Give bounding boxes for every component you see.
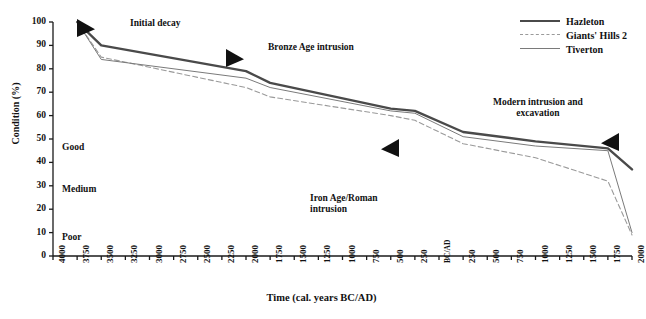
condition-zone-medium: Medium xyxy=(62,184,96,194)
y-axis-tick-80: 80 xyxy=(22,63,46,73)
legend-label-hazleton: Hazleton xyxy=(566,16,604,27)
marker-initial-decay-icon xyxy=(77,19,95,37)
legend-label-tiverton: Tiverton xyxy=(566,44,603,55)
x-axis-tick-750: 750 xyxy=(371,250,381,264)
x-axis-tick-500: 500 xyxy=(491,250,501,264)
y-axis-tick-90: 90 xyxy=(22,39,46,49)
chart-axes xyxy=(49,22,632,260)
x-axis-tick-1500: 1500 xyxy=(298,245,308,263)
x-axis-tick-250: 250 xyxy=(467,250,477,264)
y-axis-tick-0: 0 xyxy=(22,250,46,260)
x-axis-tick-4000: 4000 xyxy=(57,245,67,263)
x-axis-tick-1750: 1750 xyxy=(612,245,622,263)
x-axis-tick-1500: 1500 xyxy=(588,245,598,263)
legend-item-giants-hills-2: Giants' Hills 2 xyxy=(520,28,627,42)
y-axis-tick-40: 40 xyxy=(22,156,46,166)
annotation-bronze-age-intrusion: Bronze Age intrusion xyxy=(268,42,354,53)
x-axis-tick-3500: 3500 xyxy=(105,245,115,263)
y-axis-tick-30: 30 xyxy=(22,180,46,190)
x-axis-title: Time (cal. years BC/AD) xyxy=(0,292,643,303)
y-axis-tick-70: 70 xyxy=(22,86,46,96)
x-axis-tick-2250: 2250 xyxy=(226,245,236,263)
y-axis-tick-100: 100 xyxy=(22,16,46,26)
annotation-iron-age-roman-intrusion: Iron Age/Roman intrusion xyxy=(310,193,378,215)
x-axis-tick-1250: 1250 xyxy=(564,245,574,263)
x-axis-tick-3250: 3250 xyxy=(129,245,139,263)
y-axis-tick-60: 60 xyxy=(22,110,46,120)
x-axis-tick-1750: 1750 xyxy=(274,245,284,263)
condition-zone-poor: Poor xyxy=(62,232,82,242)
x-axis-tick-2000: 2000 xyxy=(636,245,646,263)
legend-label-giants-hills-2: Giants' Hills 2 xyxy=(566,30,627,41)
marker-iron-age-icon xyxy=(381,139,399,157)
x-axis-tick-1000: 1000 xyxy=(347,245,357,263)
legend-item-tiverton: Tiverton xyxy=(520,42,627,56)
chart-legend: Hazleton Giants' Hills 2 Tiverton xyxy=(520,14,627,56)
marker-bronze-age-icon xyxy=(226,49,244,67)
legend-key-tiverton-icon xyxy=(520,44,560,54)
x-axis-tick-3750: 3750 xyxy=(81,245,91,263)
x-axis-tick-1250: 1250 xyxy=(322,245,332,263)
x-axis-tick-250: 250 xyxy=(419,250,429,264)
x-axis-tick-BC-AD: BC/AD xyxy=(443,240,452,263)
y-axis-tick-50: 50 xyxy=(22,133,46,143)
condition-zone-good: Good xyxy=(62,142,84,152)
legend-key-hazleton-icon xyxy=(520,16,560,26)
x-axis-tick-2000: 2000 xyxy=(250,245,260,263)
x-axis-tick-3000: 3000 xyxy=(154,245,164,263)
legend-key-giants-hills-2-icon xyxy=(520,30,560,40)
y-axis-tick-10: 10 xyxy=(22,227,46,237)
annotation-modern-intrusion-and-excavation: Modern intrusion and excavation xyxy=(493,97,583,119)
annotation-initial-decay: Initial decay xyxy=(130,18,180,29)
x-axis-tick-1000: 1000 xyxy=(540,245,550,263)
legend-item-hazleton: Hazleton xyxy=(520,14,627,28)
x-axis-tick-750: 750 xyxy=(515,250,525,264)
x-axis-tick-2500: 2500 xyxy=(202,245,212,263)
x-axis-tick-2750: 2750 xyxy=(178,245,188,263)
y-axis-title: Condition (%) xyxy=(10,66,21,162)
y-axis-tick-20: 20 xyxy=(22,203,46,213)
x-axis-tick-500: 500 xyxy=(395,250,405,264)
